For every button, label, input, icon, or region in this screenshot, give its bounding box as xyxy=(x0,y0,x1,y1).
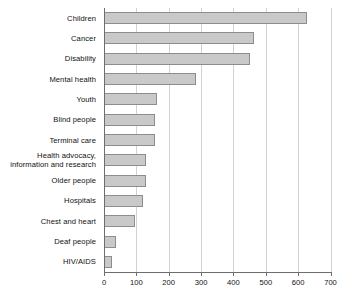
category-label: Health advocacy, information and researc… xyxy=(0,151,96,169)
tick-mark xyxy=(104,272,105,276)
gridline xyxy=(298,8,299,272)
bar xyxy=(104,154,146,166)
bar xyxy=(104,73,196,85)
category-axis-labels: ChildrenCancerDisabilityMental healthYou… xyxy=(0,8,100,272)
tick-mark xyxy=(298,272,299,276)
plot-area xyxy=(104,8,331,272)
category-label: Hospitals xyxy=(0,196,96,205)
x-axis-tick-label: 700 xyxy=(316,278,341,288)
category-label: Older people xyxy=(0,176,96,185)
bar xyxy=(104,32,254,44)
x-axis-line xyxy=(104,272,331,273)
bar xyxy=(104,195,143,207)
bar xyxy=(104,256,112,268)
category-label: Children xyxy=(0,14,96,23)
tick-mark xyxy=(233,272,234,276)
bar-chart: ChildrenCancerDisabilityMental healthYou… xyxy=(0,0,341,296)
gridline xyxy=(266,8,267,272)
gridline xyxy=(201,8,202,272)
bar xyxy=(104,93,157,105)
tick-mark xyxy=(331,272,332,276)
x-axis-tick-label: 100 xyxy=(121,278,151,288)
x-axis-tick-label: 400 xyxy=(218,278,248,288)
tick-mark xyxy=(169,272,170,276)
category-label: Chest and heart xyxy=(0,217,96,226)
bar xyxy=(104,175,146,187)
bar xyxy=(104,236,116,248)
bar xyxy=(104,215,135,227)
x-axis-tick-label: 200 xyxy=(154,278,184,288)
x-axis-tick-label: 0 xyxy=(89,278,119,288)
gridline xyxy=(169,8,170,272)
bar xyxy=(104,12,307,24)
category-label: Terminal care xyxy=(0,136,96,145)
bar xyxy=(104,114,155,126)
category-label: Deaf people xyxy=(0,237,96,246)
tick-mark xyxy=(201,272,202,276)
category-label: Mental health xyxy=(0,75,96,84)
bar xyxy=(104,53,250,65)
category-label: Cancer xyxy=(0,34,96,43)
x-axis-tick-label: 600 xyxy=(283,278,313,288)
tick-mark xyxy=(136,272,137,276)
gridline xyxy=(331,8,332,272)
gridline xyxy=(233,8,234,272)
category-label: Youth xyxy=(0,95,96,104)
category-label: Disability xyxy=(0,54,96,63)
x-axis-tick-label: 500 xyxy=(251,278,281,288)
category-label: HIV/AIDS xyxy=(0,257,96,266)
category-label: Blind people xyxy=(0,115,96,124)
x-axis-tick-label: 300 xyxy=(186,278,216,288)
bar xyxy=(104,134,155,146)
tick-mark xyxy=(266,272,267,276)
y-axis-line xyxy=(104,8,105,272)
